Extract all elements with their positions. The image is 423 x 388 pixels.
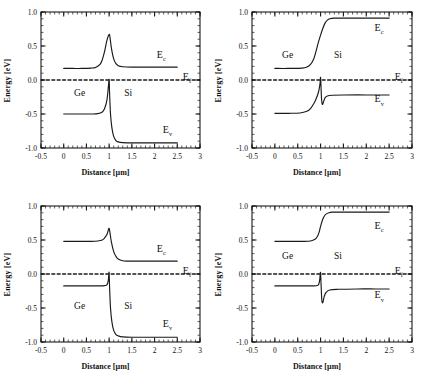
x-tick-label: 0 <box>62 152 66 161</box>
x-tick-label: 0.5 <box>293 152 303 161</box>
series-label-main: E <box>375 93 381 104</box>
x-tick-label: -0.5 <box>35 152 47 161</box>
x-tick-label: 0 <box>273 152 277 161</box>
series-label-sub: c <box>163 55 166 62</box>
y-tick-label: -1.0 <box>236 338 248 347</box>
x-axis-label-0: Distance [µm] <box>0 168 211 177</box>
x-tick-label: 0.5 <box>293 346 303 355</box>
series-label-sub: f <box>401 77 404 84</box>
series-label-sub: f <box>189 77 192 84</box>
y-tick-label: 0.0 <box>28 76 38 85</box>
series-label-main: E <box>157 49 163 60</box>
series-label-sub: c <box>163 249 166 256</box>
x-tick-label: 0.5 <box>82 152 92 161</box>
series-label-main: E <box>375 220 381 231</box>
series-label-e-c: Ec <box>157 243 166 256</box>
x-tick-label: -0.5 <box>246 152 258 161</box>
y-tick-label: -1.0 <box>25 144 37 153</box>
plot-canvas-1: -0.500.511.522.531.00.50.0-0.5-1.0EcEfEv… <box>211 0 423 194</box>
series-label-sub: f <box>189 271 192 278</box>
series-label-main: E <box>183 71 189 82</box>
x-tick-label: 1 <box>319 152 323 161</box>
x-tick-label: 2.5 <box>173 346 183 355</box>
series-label-sub: c <box>381 226 384 233</box>
x-tick-label: 1.5 <box>339 346 349 355</box>
x-tick-label: 1 <box>107 152 111 161</box>
series-label-main: E <box>163 318 169 329</box>
x-tick-label: 3 <box>198 346 202 355</box>
series-label-e-v: Ev <box>163 124 173 137</box>
x-tick-label: 1.5 <box>339 152 349 161</box>
x-tick-label: -0.5 <box>246 346 258 355</box>
region-label: Ge <box>282 50 293 60</box>
y-tick-label: 0.5 <box>239 42 249 51</box>
y-axis-label-2: Energy [eV] <box>1 194 15 354</box>
y-tick-label: 0.0 <box>239 270 249 279</box>
y-axis-label-1: Energy [eV] <box>212 0 226 160</box>
series-label-main: E <box>395 265 401 276</box>
x-tick-label: 0 <box>273 346 277 355</box>
region-label: Ge <box>74 88 85 98</box>
series-label-e-v: Ev <box>375 289 385 302</box>
y-tick-label: -0.5 <box>25 110 37 119</box>
series-label-sub: c <box>381 28 384 35</box>
y-tick-label: 0.5 <box>28 236 38 245</box>
y-tick-label: 1.0 <box>239 8 249 17</box>
x-tick-label: 1.5 <box>127 152 137 161</box>
x-axis-label-1: Distance [µm] <box>211 168 423 177</box>
y-tick-label: -1.0 <box>236 144 248 153</box>
series-label-main: E <box>375 22 381 33</box>
y-tick-label: 1.0 <box>28 8 38 17</box>
region-label: Si <box>334 50 342 60</box>
x-tick-label: 2 <box>153 152 157 161</box>
series-label-e-v: Ev <box>163 318 173 331</box>
plot-canvas-2: -0.500.511.522.531.00.50.0-0.5-1.0EcEfEv… <box>0 194 211 388</box>
series-label-sub: v <box>381 100 385 107</box>
x-tick-label: 0.5 <box>82 346 92 355</box>
figure-grid: -0.500.511.522.531.00.50.0-0.5-1.0EcEfEv… <box>0 0 423 388</box>
series-label-main: E <box>395 71 401 82</box>
panel-top-right: -0.500.511.522.531.00.50.0-0.5-1.0EcEfEv… <box>211 0 423 194</box>
x-tick-label: 1.5 <box>127 346 137 355</box>
region-label: Si <box>124 88 132 98</box>
y-tick-label: 0.5 <box>239 236 249 245</box>
plot-canvas-0: -0.500.511.522.531.00.50.0-0.5-1.0EcEfEv… <box>0 0 211 194</box>
series-label-e-c: Ec <box>375 220 384 233</box>
series-label-main: E <box>183 265 189 276</box>
region-label: Si <box>124 301 132 311</box>
y-tick-label: -0.5 <box>25 304 37 313</box>
series-label-e-f: Ef <box>395 71 404 84</box>
y-tick-label: 0.5 <box>28 42 38 51</box>
region-label: Ge <box>282 251 293 261</box>
y-tick-label: -1.0 <box>25 338 37 347</box>
series-e-v <box>275 272 389 303</box>
x-tick-label: 3 <box>410 152 414 161</box>
series-label-main: E <box>375 289 381 300</box>
y-tick-label: -0.5 <box>236 304 248 313</box>
series-e-c <box>275 18 389 68</box>
series-label-e-f: Ef <box>183 71 192 84</box>
series-label-main: E <box>157 243 163 254</box>
series-label-sub: v <box>381 296 385 303</box>
x-tick-label: 2.5 <box>384 152 394 161</box>
series-label-sub: v <box>169 324 173 331</box>
x-tick-label: 2 <box>153 346 157 355</box>
x-tick-label: 3 <box>198 152 202 161</box>
x-tick-label: 3 <box>410 346 414 355</box>
y-axis-label-0: Energy [eV] <box>1 0 15 160</box>
x-tick-label: 2.5 <box>173 152 183 161</box>
series-label-sub: f <box>401 271 404 278</box>
panel-top-left: -0.500.511.522.531.00.50.0-0.5-1.0EcEfEv… <box>0 0 211 194</box>
region-label: Ge <box>74 301 85 311</box>
series-label-main: E <box>163 124 169 135</box>
y-tick-label: 1.0 <box>239 202 249 211</box>
series-label-e-f: Ef <box>395 265 404 278</box>
panel-bottom-right: -0.500.511.522.531.00.50.0-0.5-1.0EcEfEv… <box>211 194 423 388</box>
x-tick-label: 2 <box>364 152 368 161</box>
x-axis-label-2: Distance [µm] <box>0 362 211 371</box>
x-tick-label: 2 <box>364 346 368 355</box>
x-tick-label: 1 <box>319 346 323 355</box>
x-tick-label: -0.5 <box>35 346 47 355</box>
plot-canvas-3: -0.500.511.522.531.00.50.0-0.5-1.0EcEfEv… <box>211 194 423 388</box>
x-tick-label: 2.5 <box>384 346 394 355</box>
